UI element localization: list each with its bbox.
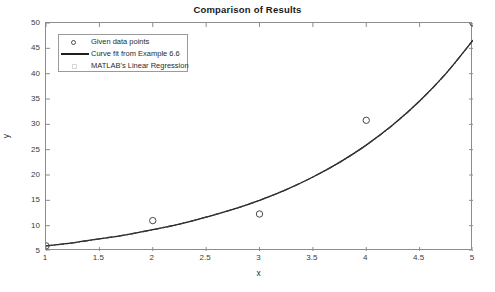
x-tick-label: 2.5 [200, 253, 211, 262]
figure-canvas: Comparison of Results y 5101520253035404… [0, 0, 495, 292]
data-point-marker [256, 211, 262, 217]
chart-title: Comparison of Results [0, 4, 495, 15]
circle-marker-icon [59, 36, 91, 48]
solid-line-icon [59, 48, 91, 60]
y-tick-label: 5 [4, 246, 40, 255]
legend-label: Curve fit from Example 6.6 [91, 48, 180, 60]
y-tick-label: 20 [4, 170, 40, 179]
legend-label: Given data points [91, 36, 149, 48]
y-tick-label: 10 [4, 220, 40, 229]
faint-marker-icon [59, 60, 91, 72]
x-tick-label: 3 [256, 253, 260, 262]
data-point-marker [150, 217, 156, 223]
x-axis-label: x [45, 268, 472, 278]
x-axis-tick-labels: 11.522.533.544.55 [45, 253, 472, 267]
y-tick-label: 40 [4, 68, 40, 77]
data-point-marker [363, 117, 369, 123]
y-axis-tick-labels: 5101520253035404550 [0, 22, 40, 250]
x-tick-label: 2 [150, 253, 154, 262]
x-tick-label: 3.5 [306, 253, 317, 262]
y-tick-label: 25 [4, 144, 40, 153]
x-tick-label: 1 [43, 253, 47, 262]
legend-entry-given-data-points[interactable]: Given data points [59, 36, 189, 48]
legend-label: MATLAB's Linear Regression [91, 60, 189, 72]
y-tick-label: 35 [4, 94, 40, 103]
x-tick-label: 4.5 [413, 253, 424, 262]
y-tick-label: 50 [4, 18, 40, 27]
y-tick-label: 15 [4, 195, 40, 204]
x-tick-label: 5 [470, 253, 474, 262]
legend-entry-linear-regression[interactable]: MATLAB's Linear Regression [59, 60, 189, 72]
x-tick-label: 1.5 [93, 253, 104, 262]
y-tick-label: 45 [4, 43, 40, 52]
x-tick-label: 4 [363, 253, 367, 262]
legend-box: Given data points Curve fit from Example… [58, 34, 188, 72]
legend-entry-curve-fit[interactable]: Curve fit from Example 6.6 [59, 48, 189, 60]
y-tick-label: 30 [4, 119, 40, 128]
